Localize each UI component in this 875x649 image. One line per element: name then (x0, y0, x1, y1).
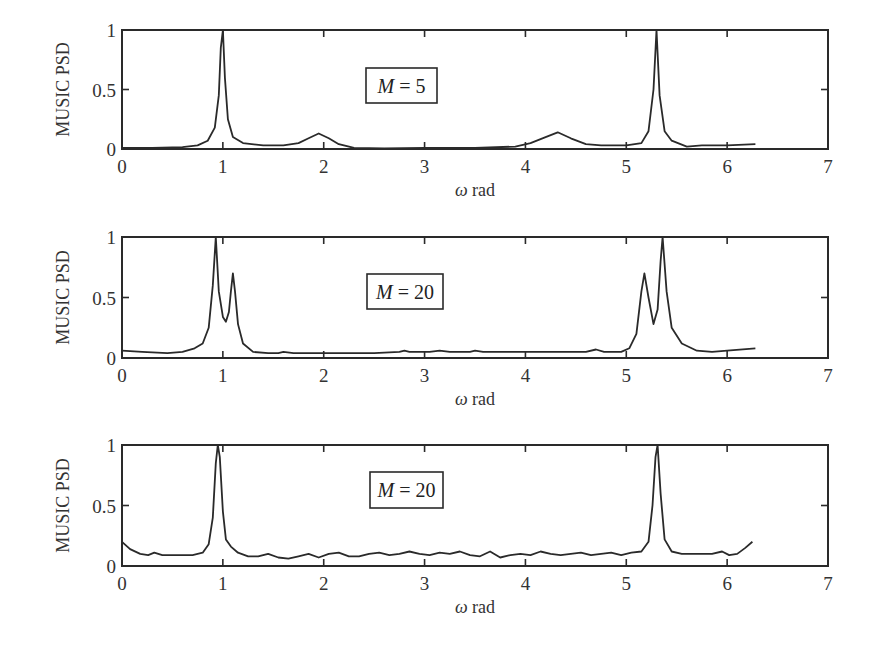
y-tick-label: 0 (107, 348, 117, 369)
axes-frame (122, 30, 828, 149)
annotation-text: M = 5 (377, 75, 426, 97)
x-tick-label: 2 (319, 365, 329, 386)
y-tick-label: 1 (107, 227, 117, 248)
x-tick-label: 0 (117, 365, 127, 386)
annotation-box: M = 5 (366, 68, 437, 103)
annotation-box: M = 20 (370, 472, 443, 508)
x-tick-label: 7 (823, 365, 833, 386)
x-tick-label: 2 (319, 573, 329, 594)
axes-frame (122, 445, 828, 566)
x-tick-label: 1 (218, 573, 228, 594)
figure: 0123456700.51MUSIC PSDω radM = 501234567… (0, 0, 875, 649)
y-axis-label: MUSIC PSD (53, 250, 73, 345)
y-tick-label: 0.5 (92, 496, 116, 517)
y-tick-label: 1 (107, 435, 117, 456)
x-tick-label: 3 (420, 156, 430, 177)
y-tick-label: 0.5 (92, 80, 116, 101)
y-tick-label: 0.5 (92, 288, 116, 309)
x-tick-label: 6 (722, 573, 732, 594)
x-tick-label: 2 (319, 156, 329, 177)
x-axis-label: ω rad (455, 597, 495, 617)
x-tick-label: 1 (218, 156, 228, 177)
x-tick-label: 5 (622, 573, 632, 594)
x-tick-label: 0 (117, 573, 127, 594)
x-tick-label: 7 (823, 156, 833, 177)
x-tick-label: 7 (823, 573, 833, 594)
x-axis-label: ω rad (455, 389, 495, 409)
x-tick-label: 6 (722, 365, 732, 386)
chart-panel-2: 0123456700.51MUSIC PSDω radM = 20 (53, 227, 833, 409)
x-tick-label: 0 (117, 156, 127, 177)
x-tick-label: 5 (622, 365, 632, 386)
music-psd-figure: 0123456700.51MUSIC PSDω radM = 501234567… (0, 0, 875, 649)
x-tick-label: 4 (521, 365, 531, 386)
x-tick-label: 5 (622, 156, 632, 177)
psd-curve (122, 30, 755, 148)
x-tick-label: 3 (420, 573, 430, 594)
x-tick-label: 6 (722, 156, 732, 177)
x-tick-label: 1 (218, 365, 228, 386)
annotation-text: M = 20 (377, 479, 436, 501)
y-tick-label: 0 (107, 556, 117, 577)
axes-frame (122, 237, 828, 358)
annotation-box: M = 20 (367, 274, 443, 309)
x-tick-label: 4 (521, 156, 531, 177)
annotation-text: M = 20 (375, 281, 434, 303)
y-axis-label: MUSIC PSD (53, 458, 73, 553)
chart-panel-1: 0123456700.51MUSIC PSDω radM = 5 (53, 20, 833, 200)
chart-panel-3: 0123456700.51MUSIC PSDω radM = 20 (53, 435, 833, 617)
x-tick-label: 4 (521, 573, 531, 594)
y-tick-label: 1 (107, 20, 117, 41)
x-axis-label: ω rad (455, 180, 495, 200)
y-axis-label: MUSIC PSD (53, 42, 73, 137)
y-tick-label: 0 (107, 139, 117, 160)
x-tick-label: 3 (420, 365, 430, 386)
